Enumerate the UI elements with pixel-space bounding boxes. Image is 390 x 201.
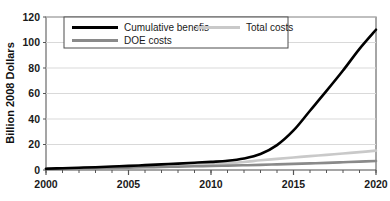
y-tick-label-120: 120 [22, 11, 40, 23]
line-chart: 020406080100120 20002005201020152020 Bil… [0, 0, 390, 201]
y-tick-label-40: 40 [28, 113, 40, 125]
chart-legend: Cumulative benefisTotal costsDOE costs [64, 17, 293, 48]
x-tick-label-2000: 2000 [34, 178, 58, 190]
x-tick-label-2005: 2005 [117, 178, 141, 190]
y-tick-label-100: 100 [22, 36, 40, 48]
x-tick-label-2020: 2020 [364, 178, 388, 190]
x-tick-label-2010: 2010 [199, 178, 223, 190]
x-tick-label-2015: 2015 [282, 178, 306, 190]
y-tick-label-20: 20 [28, 138, 40, 150]
legend-label-total-costs: Total costs [246, 22, 293, 33]
y-tick-label-0: 0 [34, 164, 40, 176]
legend-label-doe-costs: DOE costs [124, 35, 172, 46]
chart-container: 020406080100120 20002005201020152020 Bil… [0, 0, 390, 201]
y-tick-label-80: 80 [28, 62, 40, 74]
y-tick-label-60: 60 [28, 87, 40, 99]
y-axis-title: Billion 2008 Dollars [4, 42, 16, 143]
